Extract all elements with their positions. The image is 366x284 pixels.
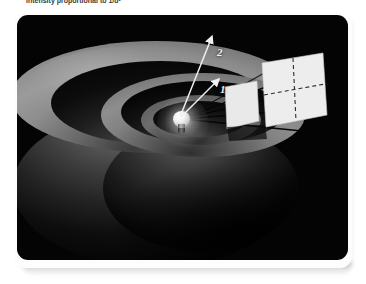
distance-label-2: 2 — [217, 46, 223, 58]
distance-label-1: 1 — [220, 83, 226, 95]
caption-strip: intensity proportional to 1/d² — [0, 0, 366, 9]
distance-arrow-layer — [17, 15, 348, 260]
figure-caption: intensity proportional to 1/d² — [26, 0, 121, 5]
distance-arrow-2 — [180, 39, 211, 117]
figure-panel: 1 2 — [17, 15, 348, 260]
